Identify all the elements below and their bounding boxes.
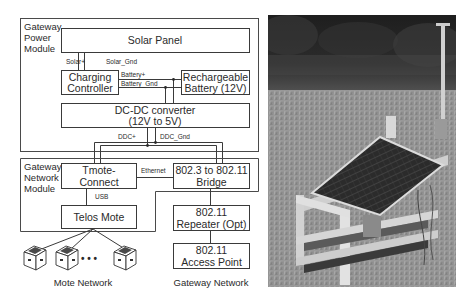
network-module-label-2: Network [24, 172, 59, 183]
antenna-mast [441, 25, 445, 135]
usb-label: USB [95, 193, 108, 200]
dcdc-label-2: (12V to 5V) [128, 115, 181, 127]
repeater-label-1: 802.11 [196, 206, 227, 218]
gateway-power-module: Gateway Power Module Solar Panel Solar+ … [21, 19, 259, 152]
more-motes-ellipsis: • • • [81, 253, 98, 264]
junction-dot [154, 141, 157, 144]
ethernet-label: Ethernet [141, 167, 166, 174]
battery-label-2: Battery (12V) [185, 82, 247, 94]
power-module-label-1: Gateway [24, 21, 62, 32]
junction-dot [146, 144, 149, 147]
battery-gnd-label: Battery_Gnd [121, 80, 158, 88]
gateway-network-caption: Gateway Network [174, 277, 249, 288]
mote-icon [114, 246, 136, 270]
power-module-label-3: Module [24, 43, 55, 54]
ddc-power-wiring [95, 128, 223, 167]
mote-icon [24, 246, 46, 270]
network-module-label-1: Gateway [24, 161, 62, 172]
junction-dot [172, 78, 175, 81]
battery-plus-label: Battery+ [121, 71, 146, 79]
repeater-label-2: Repeater (Opt) [176, 218, 246, 230]
solar-panel-label: Solar Panel [128, 34, 182, 46]
mote-radio-links [39, 229, 125, 250]
mote-icon [56, 246, 78, 270]
ddc-plus-to-bridge [148, 146, 217, 167]
junction-dot [164, 86, 167, 89]
solar-gnd-label: Solar_Gnd [106, 58, 137, 66]
enclosure-post [386, 116, 396, 138]
ddc-plus-label: DDC+ [118, 133, 136, 140]
access-point-label-2: Access Point [181, 256, 242, 268]
charging-controller-label-2: Controller [67, 82, 113, 94]
telos-mote-label: Telos Mote [74, 211, 125, 223]
power-module-label-2: Power [24, 32, 51, 43]
solar-plus-label: Solar+ [66, 58, 85, 65]
ddc-gnd-label: DDC_Gnd [160, 133, 190, 141]
mote-network-caption: Mote Network [54, 277, 113, 288]
ddc-gnd-to-bridge [156, 143, 223, 167]
access-point-label-1: 802.11 [196, 244, 227, 256]
tmote-connect-label-1: Tmote- [82, 164, 116, 176]
deployment-photo [268, 15, 456, 287]
tmote-connect-label-2: Connect [79, 176, 118, 188]
bridge-label-1: 802.3 to 802.11 [175, 164, 247, 176]
network-module-label-3: Module [24, 183, 55, 194]
bridge-label-2: Bridge [196, 176, 227, 188]
